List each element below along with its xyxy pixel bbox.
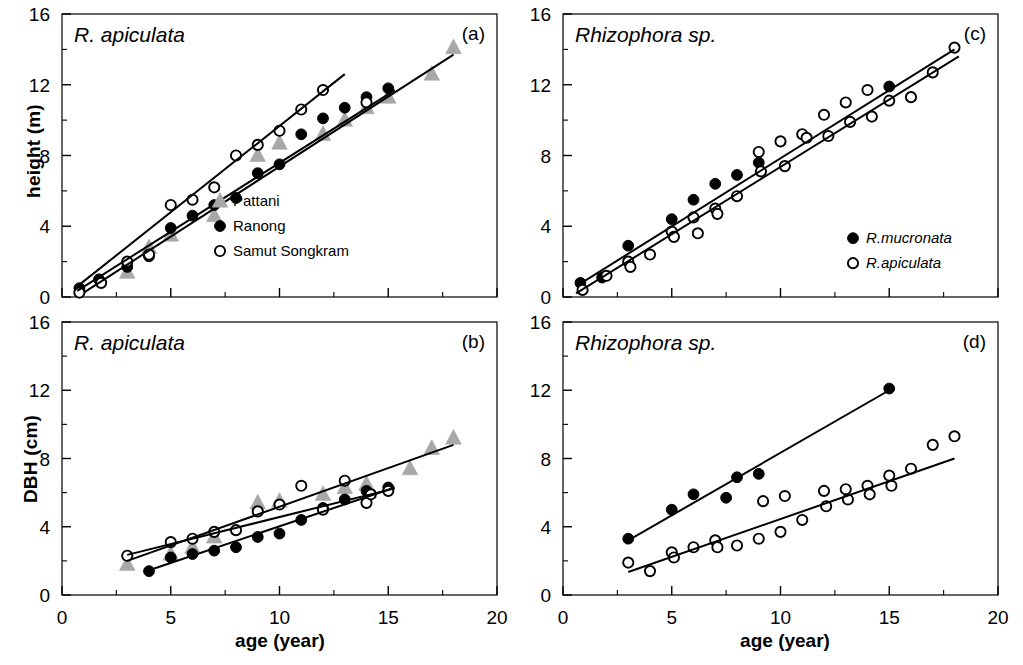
data-point-filled-circle [710,178,721,189]
data-point-open-circle [209,182,219,192]
data-point-open-circle [215,246,225,256]
x-tick-label: 15 [378,607,399,628]
y-tick-label: 12 [530,75,551,96]
legend-label: R.mucronata [866,229,952,246]
data-point-open-circle [754,147,764,157]
panel-d-title: Rhizophora sp. [575,331,716,354]
y-tick-label: 4 [540,216,551,237]
data-point-open-circle [841,484,851,494]
data-point-open-circle [841,97,851,107]
x-tick-label: 10 [770,607,791,628]
panel-a-legend: PattaniRanongSamut Songkram [212,192,349,259]
y-tick-label: 12 [29,75,50,96]
y-tick-label: 8 [540,449,551,470]
data-point-open-circle [732,540,742,550]
data-point-filled-circle [688,194,699,205]
y-tick-label: 0 [540,585,551,606]
panel-d-canvas: 048121605101520Rhizophora sp.(d) [501,308,1023,640]
data-point-open-circle [780,491,790,501]
data-point-open-circle [819,486,829,496]
panel-c-legend: R.mucronataR.apiculata [848,229,952,271]
panel-a: 0481216R. apiculata(a)PattaniRanongSamut… [0,0,522,332]
series-pattani [119,430,461,571]
data-point-open-circle [645,566,655,576]
data-point-open-circle [625,262,635,272]
y-tick-label: 0 [39,585,50,606]
data-point-open-circle [775,527,785,537]
y-tick-label: 16 [29,4,50,25]
panel-c-canvas: 0481216Rhizophora sp.(c)R.mucronataR.api… [501,0,1023,332]
y-tick-label: 12 [530,380,551,401]
regression-line [576,49,954,286]
regression-line [628,459,954,572]
data-point-open-circle [906,92,916,102]
panel-d-plot-frame [563,322,998,595]
panel-c: 0481216Rhizophora sp.(c)R.mucronataR.api… [501,0,1023,332]
panel-d: 048121605101520Rhizophora sp.(d) [501,308,1023,640]
data-point-open-circle [865,489,875,499]
regression-line [77,90,395,291]
data-point-open-circle [754,534,764,544]
y-tick-label: 0 [540,287,551,308]
x-tick-label: 0 [57,607,68,628]
legend-label: Ranong [233,217,286,234]
panel-d-tag: (d) [963,331,986,352]
panel-c-tag: (c) [964,23,986,44]
panel-a-title: R. apiculata [74,23,185,46]
regression-line [127,488,395,555]
data-point-open-circle [693,228,703,238]
y-tick-label: 4 [39,517,50,538]
data-point-open-circle [819,110,829,120]
panel-a-tag: (a) [462,23,485,44]
data-point-triangle [272,135,288,150]
data-point-filled-circle [339,102,350,113]
y-tick-label: 8 [540,146,551,167]
data-point-open-circle [949,431,959,441]
data-point-open-circle [758,496,768,506]
legend-label: Samut Songkram [233,242,349,259]
y-tick-label: 4 [540,517,551,538]
data-point-filled-circle [215,221,226,232]
data-point-filled-circle [144,566,155,577]
data-point-open-circle [712,209,722,219]
legend-label: R.apiculata [866,254,941,271]
data-point-filled-circle [753,468,764,479]
y-tick-label: 16 [530,312,551,333]
regression-line [149,488,395,571]
data-point-open-circle [797,515,807,525]
panel-b-tag: (b) [462,331,485,352]
panel-c-title: Rhizophora sp. [575,23,716,46]
y-tick-label: 16 [29,312,50,333]
data-point-filled-circle [274,528,285,539]
data-point-open-circle [712,542,722,552]
data-point-open-circle [928,440,938,450]
data-point-filled-circle [721,492,732,503]
data-point-filled-circle [848,233,859,244]
data-point-open-circle [296,481,306,491]
legend-label: Pattani [233,192,280,209]
y-tick-label: 8 [39,146,50,167]
y-tick-label: 12 [29,380,50,401]
x-tick-label: 20 [987,607,1008,628]
figure-root: height (m) DBH (cm) age (year) age (year… [0,0,1023,665]
data-point-filled-circle [623,240,634,251]
data-point-open-circle [862,85,872,95]
x-tick-label: 15 [879,607,900,628]
data-point-open-circle [231,150,241,160]
data-point-filled-circle [318,113,329,124]
x-tick-label: 5 [666,607,677,628]
panel-a-canvas: 0481216R. apiculata(a)PattaniRanongSamut… [0,0,522,332]
series-r-apiculata [623,431,959,576]
x-tick-label: 10 [269,607,290,628]
panel-b-canvas: 048121605101520R. apiculata(b) [0,308,522,640]
y-tick-label: 0 [39,287,50,308]
data-point-open-circle [848,258,858,268]
y-tick-label: 8 [39,449,50,470]
panel-b-title: R. apiculata [74,331,185,354]
x-tick-label: 0 [558,607,569,628]
y-tick-label: 16 [530,4,551,25]
panel-b: 048121605101520R. apiculata(b) [0,308,522,640]
y-tick-label: 4 [39,216,50,237]
data-point-triangle [446,430,462,445]
data-point-filled-circle [688,489,699,500]
